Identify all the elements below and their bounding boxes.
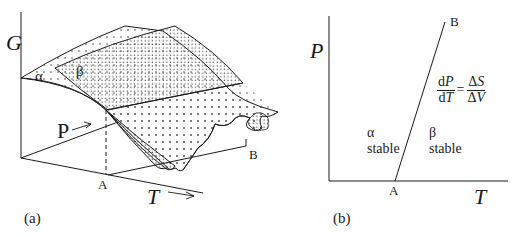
p-axis-label: P [57,120,69,142]
beta-stable-region: β stable [429,125,462,157]
panel-a-diagram [0,0,290,237]
caption-b: (b) [333,211,351,226]
eq-lhs-num: dP [438,74,454,89]
p-arrow-icon [72,122,91,130]
clapeyron-equation: dP dT = ΔS ΔV [437,75,486,105]
point-b-b-label: B [450,15,459,28]
eq-rhs-num: ΔS [468,74,484,89]
g-axis-label: G [6,32,22,54]
alpha-surface-label: α [35,69,43,84]
eq-lhs-den: dT [438,90,453,105]
eq-equals: = [457,82,465,98]
p-axis-b-label: P [310,40,323,62]
beta-surface-label: β [76,64,84,79]
t-axis-b-label: T [474,186,486,208]
point-b-label: B [249,148,258,161]
eq-rhs-den: ΔV [467,90,485,105]
p-axis [21,122,118,158]
alpha-stable-region: α stable [367,125,400,157]
point-a-label: A [98,178,107,191]
point-a-b-label: A [389,184,398,197]
alpha-phase-symbol: α [367,125,400,141]
t-axis-label: T [147,186,159,208]
caption-a: (a) [24,211,41,226]
beta-phase-symbol: β [429,125,462,141]
alpha-stable-label: stable [367,141,400,157]
t-arrow-icon [168,192,194,199]
beta-stable-label: stable [429,141,462,157]
